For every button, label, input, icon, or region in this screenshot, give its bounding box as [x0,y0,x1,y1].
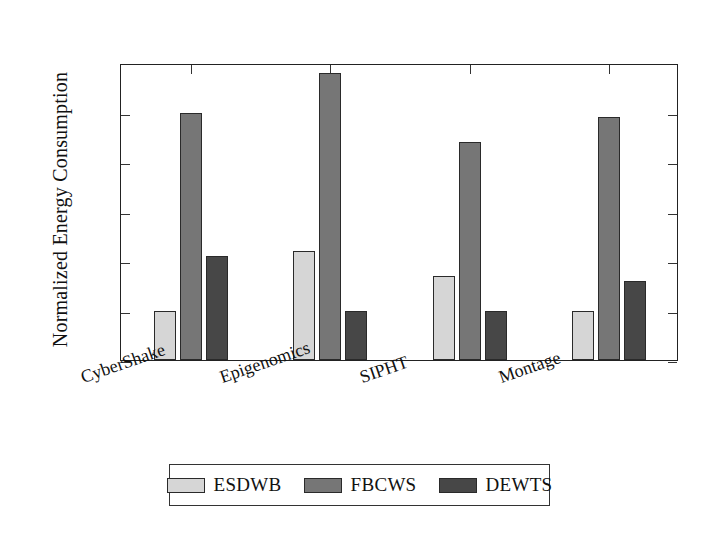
y-tick-mark-right [668,263,677,264]
legend-label-dewts: DEWTS [486,474,553,496]
legend-swatch-fbcws [304,478,342,493]
bar-fbcws-sipht [459,142,481,360]
chart-figure: Normalized Energy Consumption 0.91.01.11… [0,0,714,539]
bar-fbcws-cybershake [180,113,202,361]
y-tick-mark-right [668,164,677,165]
bar-fbcws-montage [598,117,620,360]
y-tick-mark-right [668,362,677,363]
bar-dewts-cybershake [206,256,228,360]
plot-area [121,65,677,360]
bar-dewts-montage [624,281,646,360]
legend-swatch-dewts [439,478,477,493]
y-tick-mark-left [121,263,130,264]
legend-label-fbcws: FBCWS [351,474,417,496]
x-tick-mark-top [609,65,610,74]
bar-esdwb-montage [572,311,594,361]
x-tick-mark-top [470,65,471,74]
bar-esdwb-sipht [433,276,455,360]
y-tick-mark-left [121,164,130,165]
x-tick-mark-top [191,65,192,74]
y-tick-mark-left [121,214,130,215]
y-tick-mark-left [121,115,130,116]
y-tick-mark-right [668,313,677,314]
y-tick-mark-right [668,115,677,116]
legend-entry-0[interactable]: ESDWB [156,474,293,496]
bar-dewts-epigenomics [345,311,367,361]
chart-legend: ESDWB FBCWS DEWTS [169,464,550,506]
y-axis-title: Normalized Energy Consumption [49,50,72,370]
plot-frame [120,64,678,361]
legend-label-esdwb: ESDWB [214,474,282,496]
legend-swatch-esdwb [167,478,205,493]
y-tick-mark-right [668,214,677,215]
legend-entry-1[interactable]: FBCWS [293,474,428,496]
bar-fbcws-epigenomics [319,73,341,360]
bar-dewts-sipht [485,311,507,361]
y-tick-mark-left [121,313,130,314]
legend-entry-2[interactable]: DEWTS [428,474,564,496]
